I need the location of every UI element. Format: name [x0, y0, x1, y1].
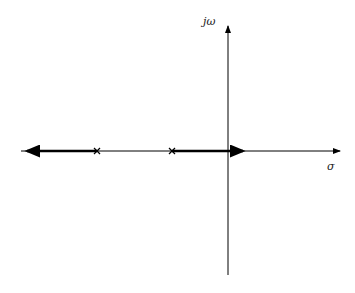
imaginary-axis-label: jω — [203, 15, 215, 28]
root-locus-plot — [0, 0, 355, 293]
real-axis-label: σ — [327, 160, 335, 173]
